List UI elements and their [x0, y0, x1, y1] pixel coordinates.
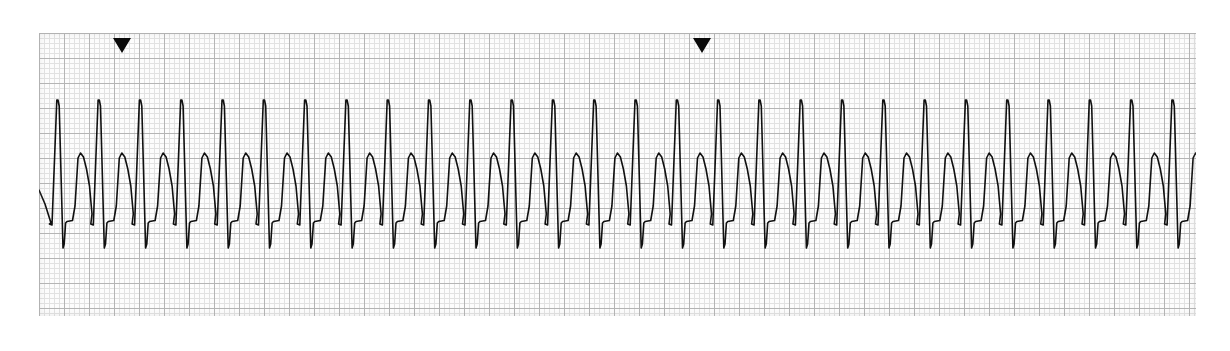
ecg-graph-paper — [39, 33, 1196, 316]
paper-edge-shading — [39, 33, 1196, 316]
triangle-down-icon — [113, 38, 131, 53]
ecg-grid-major — [39, 33, 1196, 316]
ecg-strip-page — [0, 0, 1230, 351]
ecg-trace-path — [39, 100, 1196, 248]
triangle-down-icon — [693, 38, 711, 53]
ecg-grid-minor — [39, 33, 1196, 316]
ecg-waveform — [39, 33, 1196, 316]
